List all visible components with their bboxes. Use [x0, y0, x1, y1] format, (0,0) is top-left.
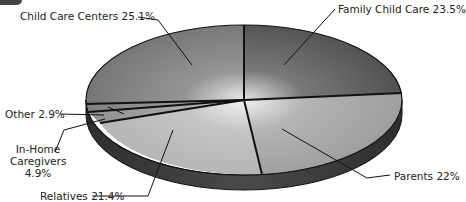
label-in-home-line3: 4.9% — [10, 167, 66, 179]
label-in-home-line2: Caregivers — [10, 155, 66, 167]
pie-top — [86, 25, 402, 175]
label-other: Other 2.9% — [5, 108, 65, 120]
label-in-home-caregivers: In-Home Caregivers 4.9% — [10, 143, 66, 179]
label-parents: Parents 22% — [394, 170, 460, 182]
label-child-care-centers: Child Care Centers 25.1% — [20, 10, 155, 22]
label-in-home-line1: In-Home — [10, 143, 66, 155]
label-family-child-care: Family Child Care 23.5% — [338, 3, 466, 15]
label-relatives: Relatives 21.4% — [40, 190, 125, 202]
